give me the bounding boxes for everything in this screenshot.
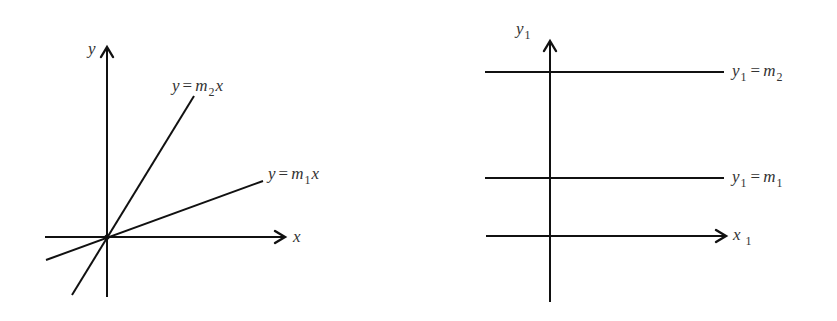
lhs: y	[732, 61, 740, 80]
x-label-text: x	[293, 227, 301, 246]
label-line-m2: y=m2x	[172, 77, 223, 94]
label-y1-m1: y1=m1	[732, 168, 783, 185]
y-label-text: y	[88, 39, 96, 58]
origin-point	[104, 234, 109, 239]
rhs: m	[763, 167, 775, 186]
subscript: 2	[208, 85, 214, 99]
subscript: 1	[746, 234, 752, 248]
coef: m	[195, 76, 207, 95]
left-y-axis-label: y	[88, 40, 96, 57]
rhs-subscript: 1	[776, 176, 782, 190]
equals: =	[279, 164, 289, 183]
lhs: y	[268, 164, 276, 183]
label-y1-m2: y1=m2	[732, 62, 783, 79]
equals: =	[751, 61, 761, 80]
left-x-axis-label: x	[293, 228, 301, 245]
lhs: y	[732, 167, 740, 186]
equals: =	[751, 167, 761, 186]
lhs-subscript: 1	[741, 70, 747, 84]
var: x	[215, 76, 223, 95]
coef: m	[291, 164, 303, 183]
rhs: m	[763, 61, 775, 80]
lhs-subscript: 1	[741, 176, 747, 190]
line-m2	[72, 96, 194, 295]
right-y-axis-label: y1	[516, 20, 532, 37]
y-label-text: y	[516, 19, 524, 38]
right-x-axis-label: x1	[733, 226, 753, 243]
right-diagram	[485, 41, 726, 302]
lhs: y	[172, 76, 180, 95]
x-label-text: x	[733, 225, 741, 244]
figure-canvas	[0, 0, 837, 321]
equals: =	[183, 76, 193, 95]
label-line-m1: y=m1x	[268, 165, 319, 182]
subscript: 1	[525, 28, 531, 42]
subscript: 1	[304, 173, 310, 187]
line-m1	[46, 181, 263, 260]
rhs-subscript: 2	[776, 70, 782, 84]
left-diagram	[45, 47, 285, 297]
var: x	[311, 164, 319, 183]
